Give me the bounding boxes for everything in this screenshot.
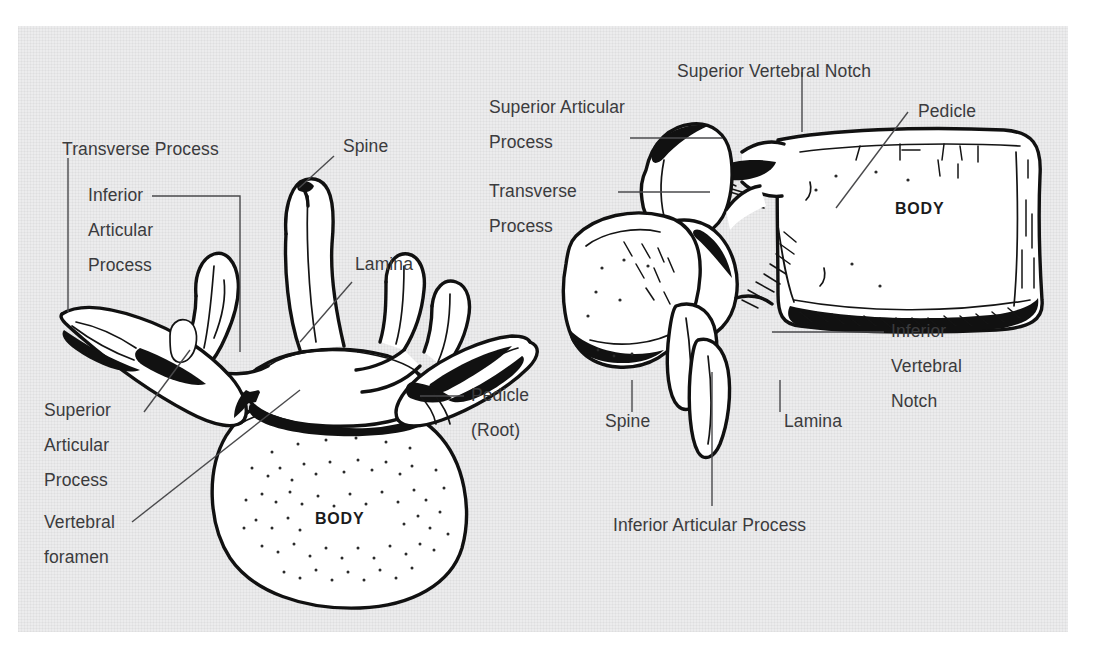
label-line: Articular xyxy=(44,428,154,463)
body-label-right-view: BODY xyxy=(895,200,944,218)
label-line: Process xyxy=(44,463,154,498)
label-line: Notch xyxy=(891,384,1021,419)
label-line: Process xyxy=(88,248,198,283)
label-line: Inferior xyxy=(891,314,1021,349)
label-inferior-articular-process-right: Inferior Articular Process xyxy=(613,508,806,543)
label-line: Transverse xyxy=(489,174,629,209)
label-line: Inferior xyxy=(88,178,198,213)
label-pedicle-right: Pedicle xyxy=(918,94,976,129)
label-line: Vertebral xyxy=(44,505,154,540)
label-transverse-process-right: Transverse Process xyxy=(489,174,629,244)
label-transverse-process-left: Transverse Process xyxy=(62,132,219,167)
label-line: Process xyxy=(489,209,629,244)
label-line: (Root) xyxy=(471,413,581,448)
label-line: Articular xyxy=(88,213,198,248)
label-superior-articular-process-right: Superior Articular Process xyxy=(489,90,649,160)
label-line: Vertebral xyxy=(891,349,1021,384)
label-lamina-right: Lamina xyxy=(784,404,842,439)
label-line: Process xyxy=(489,125,649,160)
label-superior-articular-process-left: Superior Articular Process xyxy=(44,393,154,498)
label-superior-vertebral-notch-right: Superior Vertebral Notch xyxy=(677,54,871,89)
label-inferior-articular-process-left: Inferior Articular Process xyxy=(88,178,198,283)
label-line: Superior Articular xyxy=(489,90,649,125)
figure-root: Transverse Process Inferior Articular Pr… xyxy=(0,0,1099,662)
label-vertebral-foramen-left: Vertebral foramen xyxy=(44,505,154,575)
label-line: foramen xyxy=(44,540,154,575)
label-line: Pedicle xyxy=(471,378,581,413)
body-label-left-view: BODY xyxy=(315,510,364,528)
label-spine-right: Spine xyxy=(605,404,650,439)
label-spine-left: Spine xyxy=(343,129,388,164)
label-line: Superior xyxy=(44,393,154,428)
label-lamina-left: Lamina xyxy=(355,247,413,282)
label-inferior-vertebral-notch-right: Inferior Vertebral Notch xyxy=(891,314,1021,419)
label-pedicle-root-left: Pedicle (Root) xyxy=(471,378,581,448)
